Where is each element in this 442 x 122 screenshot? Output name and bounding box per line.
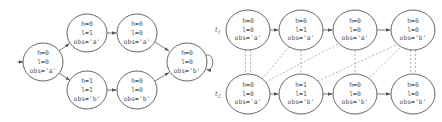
trace-node: h=1 l=1 obs='b' <box>279 74 323 114</box>
node-label: l=0 <box>37 58 49 66</box>
trace-node: h=0 l=0 obs='a' <box>226 74 270 114</box>
node-label: obs='a' <box>124 38 151 46</box>
node-label: l=0 <box>349 26 361 34</box>
node-label: l=0 <box>349 90 361 98</box>
node-label: obs='a' <box>235 34 262 42</box>
node-label: h=0 <box>349 17 361 25</box>
diagram-svg: h=0 l=0 obs='a' h=0 l=1 obs='a' h=0 l=0 … <box>0 0 442 122</box>
state-node: h=0 l=0 obs='a' <box>23 43 63 81</box>
trace-node: h=0 l=0 obs='b' <box>333 74 377 114</box>
node-label: h=0 <box>131 20 143 28</box>
node-label: l=1 <box>81 86 93 94</box>
state-node: h=1 l=1 obs='b' <box>67 71 107 109</box>
node-label: obs='a' <box>288 34 315 42</box>
diagram-canvas: h=0 l=0 obs='a' h=0 l=1 obs='a' h=0 l=0 … <box>0 0 442 122</box>
node-label: obs='b' <box>174 67 201 75</box>
node-label: obs='b' <box>124 95 151 103</box>
node-label: l=0 <box>407 26 419 34</box>
node-label: l=1 <box>81 29 93 37</box>
node-label: h=0 <box>349 81 361 89</box>
node-label: obs='b' <box>288 98 315 106</box>
node-label: obs='b' <box>74 95 101 103</box>
trace-node: h=0 l=0 obs='a' <box>226 10 270 50</box>
trace-node: h=0 l=0 obs='b' <box>391 10 435 50</box>
node-label: h=0 <box>37 49 49 57</box>
left-state-diagram: h=0 l=0 obs='a' h=0 l=1 obs='a' h=0 l=0 … <box>17 14 213 109</box>
trace-label-t2: t2 <box>215 90 221 99</box>
node-label: obs='b' <box>342 98 369 106</box>
node-label: l=0 <box>242 26 254 34</box>
edge-s0-s1 <box>59 44 70 52</box>
node-label: obs='b' <box>400 98 427 106</box>
node-label: l=0 <box>131 29 143 37</box>
trace-node: h=0 l=0 obs='a' <box>333 10 377 50</box>
node-label: h=0 <box>81 20 93 28</box>
trace-node: h=0 l=1 obs='a' <box>279 10 323 50</box>
node-label: obs='a' <box>235 98 262 106</box>
node-label: h=0 <box>181 49 193 57</box>
node-label: l=0 <box>242 90 254 98</box>
state-node: h=0 l=0 obs='b' <box>167 43 207 81</box>
node-label: h=1 <box>81 77 93 85</box>
node-label: l=0 <box>181 58 193 66</box>
node-label: h=0 <box>131 77 143 85</box>
state-node: h=0 l=0 obs='b' <box>117 71 157 109</box>
edge-s2-s5 <box>155 42 169 51</box>
node-label: h=1 <box>295 81 307 89</box>
node-label: obs='a' <box>342 34 369 42</box>
node-label: h=0 <box>295 17 307 25</box>
node-label: l=1 <box>295 90 307 98</box>
node-label: obs='a' <box>74 38 101 46</box>
trace-node: h=0 l=0 obs='b' <box>391 74 435 114</box>
node-label: obs='a' <box>30 67 57 75</box>
node-label: obs='b' <box>400 34 427 42</box>
node-label: l=0 <box>407 90 419 98</box>
state-node: h=0 l=1 obs='a' <box>67 14 107 52</box>
node-label: h=0 <box>407 81 419 89</box>
node-label: h=0 <box>407 17 419 25</box>
node-label: l=0 <box>131 86 143 94</box>
node-label: h=0 <box>242 17 254 25</box>
right-trace-diagram: t1 t2 h=0 l=0 obs='a' h=0 l=1 <box>215 10 435 114</box>
trace-label-t1: t1 <box>215 26 221 35</box>
node-label: l=1 <box>295 26 307 34</box>
correspondence-line <box>262 47 289 79</box>
state-node: h=0 l=0 obs='a' <box>117 14 157 52</box>
node-label: h=0 <box>242 81 254 89</box>
edge-s0-s3 <box>59 73 70 81</box>
correspondence-line <box>368 48 400 79</box>
edge-s4-s5 <box>155 73 169 82</box>
